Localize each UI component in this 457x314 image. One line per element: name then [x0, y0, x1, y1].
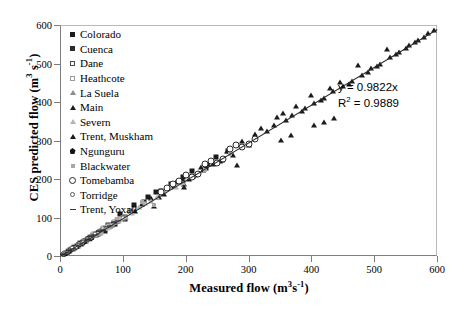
- legend-marker-icon: [66, 105, 79, 110]
- y-tick: [54, 218, 60, 219]
- scatter-chart-figure: CES predicted flow (m3 s-1) Measured flo…: [0, 0, 457, 314]
- marker-icon: [355, 63, 361, 68]
- legend-marker-icon: [66, 46, 79, 51]
- x-tick-label: 100: [115, 264, 131, 275]
- legend-item-heathcote[interactable]: Heathcote: [66, 71, 153, 86]
- legend-label: Cuenca: [79, 43, 113, 55]
- marker-icon: [70, 61, 75, 66]
- marker-icon: [384, 46, 390, 51]
- legend-label: Heathcote: [79, 72, 125, 84]
- x-tick-label: 200: [178, 264, 194, 275]
- legend-marker-icon: [66, 177, 79, 184]
- legend-label: Trent, Yoxall: [79, 203, 137, 215]
- y-tick: [54, 25, 60, 26]
- data-point: [327, 86, 333, 91]
- legend-item-trent-muskham[interactable]: Trent, Muskham: [66, 129, 153, 144]
- marker-icon: [70, 76, 75, 81]
- legend-marker-icon: [66, 119, 79, 124]
- marker-icon: [288, 133, 294, 138]
- y-tick-label: 400: [36, 97, 52, 108]
- marker-icon: [327, 86, 333, 91]
- marker-icon: [70, 90, 76, 95]
- legend-marker-icon: [66, 32, 79, 37]
- legend-label: Torridge: [79, 189, 118, 201]
- x-tick-label: 0: [57, 264, 62, 275]
- y-tick: [54, 64, 60, 65]
- legend-item-torridge[interactable]: Torridge: [66, 188, 153, 203]
- legend-label: Severn: [79, 116, 111, 128]
- legend-item-la-suela[interactable]: La Suela: [66, 85, 153, 100]
- legend-label: Blackwater: [79, 160, 130, 172]
- legend-item-ngunguru[interactable]: Ngunguru: [66, 144, 153, 159]
- legend-item-colorado[interactable]: Colorado: [66, 27, 153, 42]
- x-tick-label: 300: [241, 264, 257, 275]
- y-tick: [54, 102, 60, 103]
- data-point: [293, 103, 299, 108]
- equation-text: y = 0.9822x: [338, 80, 399, 95]
- data-point: [234, 163, 240, 168]
- marker-icon: [70, 32, 75, 37]
- plot-area: 0100200300400500600 0100200300400500600 …: [60, 25, 437, 256]
- data-point: [384, 46, 390, 51]
- marker-icon: [70, 119, 76, 124]
- marker-icon: [70, 46, 75, 51]
- legend-item-severn[interactable]: Severn: [66, 115, 153, 130]
- legend-label: Ngunguru: [79, 145, 125, 157]
- marker-icon: [71, 164, 75, 168]
- legend-label: Main: [79, 101, 103, 113]
- legend-marker-icon: [66, 134, 79, 139]
- marker-icon: [70, 105, 76, 110]
- marker-icon: [331, 116, 337, 121]
- regression-annotation: y = 0.9822x R2 = 0.9889: [338, 80, 399, 110]
- data-point: [274, 114, 280, 119]
- legend-label: Colorado: [79, 28, 121, 40]
- legend-item-cuenca[interactable]: Cuenca: [66, 42, 153, 57]
- data-point: [308, 93, 314, 98]
- legend-marker-icon: [66, 209, 79, 210]
- data-point: [311, 123, 317, 128]
- legend-marker-icon: [66, 76, 79, 81]
- legend-label: Tomebamba: [79, 174, 134, 186]
- legend-label: Trent, Muskham: [79, 130, 153, 142]
- y-tick-label: 100: [36, 212, 52, 223]
- y-tick-label: 600: [36, 20, 52, 31]
- marker-icon: [69, 177, 76, 184]
- marker-icon: [258, 126, 264, 131]
- marker-icon: [70, 209, 76, 210]
- legend-item-blackwater[interactable]: Blackwater: [66, 158, 153, 173]
- legend-marker-icon: [66, 164, 79, 168]
- marker-icon: [70, 192, 75, 197]
- marker-icon: [311, 123, 317, 128]
- legend-marker-icon: [66, 61, 79, 66]
- legend: ColoradoCuencaDaneHeathcoteLa SuelaMainS…: [66, 27, 153, 217]
- x-tick-label: 400: [303, 264, 319, 275]
- x-axis-title: Measured flow (m3s-1): [60, 281, 438, 296]
- data-point: [181, 185, 187, 190]
- legend-item-main[interactable]: Main: [66, 100, 153, 115]
- data-point: [280, 110, 286, 115]
- data-point: [288, 133, 294, 138]
- x-tick-label: 600: [429, 264, 445, 275]
- y-tick: [54, 141, 60, 142]
- legend-item-dane[interactable]: Dane: [66, 56, 153, 71]
- data-point: [331, 116, 337, 121]
- x-tick: [437, 256, 438, 262]
- legend-label: La Suela: [79, 87, 119, 99]
- y-tick: [54, 179, 60, 180]
- legend-marker-icon: [66, 192, 79, 197]
- y-tick-label: 0: [47, 251, 52, 262]
- marker-icon: [70, 148, 76, 154]
- y-tick-label: 300: [36, 135, 52, 146]
- x-tick-label: 500: [366, 264, 382, 275]
- r-squared-text: R2 = 0.9889: [338, 96, 399, 111]
- y-tick-label: 200: [36, 174, 52, 185]
- legend-item-trent-yoxall[interactable]: Trent, Yoxall: [66, 202, 153, 217]
- marker-icon: [181, 185, 187, 190]
- marker-icon: [321, 120, 327, 125]
- data-point: [321, 120, 327, 125]
- data-point: [258, 126, 264, 131]
- legend-item-tomebamba[interactable]: Tomebamba: [66, 173, 153, 188]
- marker-icon: [278, 137, 284, 142]
- marker-icon: [308, 93, 314, 98]
- legend-marker-icon: [66, 90, 79, 95]
